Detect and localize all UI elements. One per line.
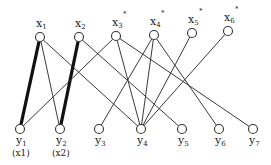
node-y3 [95, 125, 104, 134]
edges-layer [21, 34, 249, 126]
node-y1 [16, 125, 25, 134]
star-marker-x4: * [161, 9, 165, 17]
caption-y2: (x2) [52, 148, 70, 158]
caption-y1: (x1) [12, 148, 30, 158]
node-x1 [36, 33, 45, 42]
edge-x2-y5 [82, 40, 178, 126]
star-marker-x5: * [199, 7, 203, 15]
node-x6 [224, 27, 233, 36]
node-label-y6: y6 [214, 134, 226, 148]
labels-layer: x1x2x3*x4*x5*x6*y1(x1)y2(x2)y3y4y5y6y7 [12, 5, 260, 158]
node-label-x3: x3 [112, 16, 123, 30]
star-marker-x6: * [235, 5, 239, 13]
node-label-y4: y4 [136, 134, 148, 148]
node-x2 [75, 33, 84, 42]
node-label-x5: x5 [188, 13, 199, 27]
node-x4 [150, 31, 159, 40]
edge-x3-y7 [120, 39, 250, 127]
node-label-y2: y2 [55, 134, 67, 148]
node-y7 [249, 125, 258, 134]
edge-x1-y1 [21, 41, 39, 124]
node-y6 [215, 125, 224, 134]
node-label-x2: x2 [75, 17, 86, 31]
node-label-x4: x4 [150, 15, 161, 29]
node-x5 [188, 29, 197, 38]
node-label-y3: y3 [94, 134, 106, 148]
node-label-x1: x1 [36, 17, 47, 31]
edge-x1-y4 [43, 40, 137, 126]
node-label-y7: y7 [248, 134, 260, 148]
bipartite-graph: x1x2x3*x4*x5*x6*y1(x1)y2(x2)y3y4y5y6y7 [0, 0, 271, 165]
edge-x3-y4 [117, 40, 140, 124]
edge-x4-y3 [101, 39, 151, 125]
node-y4 [137, 125, 146, 134]
node-y2 [56, 125, 65, 134]
node-y5 [178, 125, 187, 134]
nodes-layer [16, 27, 258, 134]
node-x3 [112, 32, 121, 41]
node-label-x6: x6 [224, 11, 235, 25]
edge-x2-y2 [61, 41, 78, 124]
star-marker-x3: * [123, 10, 127, 18]
node-label-y1: y1 [15, 134, 27, 148]
edge-x1-y2 [41, 41, 59, 124]
node-label-y5: y5 [177, 134, 189, 148]
